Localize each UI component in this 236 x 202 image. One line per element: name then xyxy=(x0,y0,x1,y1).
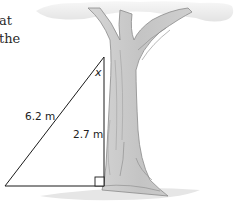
question-text-fragment-2: the xyxy=(0,31,20,46)
question-text-fragment-1: at xyxy=(0,13,12,28)
angle-label: x xyxy=(95,66,102,79)
vertical-side-label: 2.7 m xyxy=(73,128,103,140)
right-angle-marker xyxy=(95,177,104,186)
tree-foliage xyxy=(36,1,233,21)
hypotenuse-label: 6.2 m xyxy=(25,110,55,122)
diagram: at the x 6.2 m 2.7 m xyxy=(0,0,236,202)
tree-illustration xyxy=(0,0,236,202)
